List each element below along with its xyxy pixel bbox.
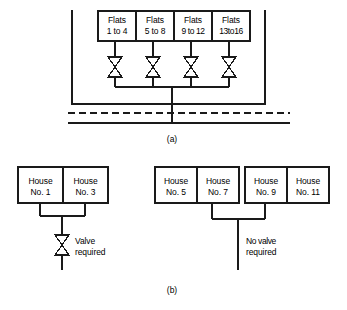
flats-box-3 [174, 11, 212, 41]
flats-box-4 [212, 11, 250, 41]
panel-a-caption: (a) [152, 134, 192, 144]
valve-a-4-lower [222, 67, 236, 77]
house-box-7 [197, 167, 239, 203]
house-box-9 [245, 167, 287, 203]
flats-box-1 [98, 11, 136, 41]
valve-a-2-upper [146, 57, 160, 67]
valve-a-1-upper [108, 57, 122, 67]
house-box-11 [287, 167, 329, 203]
panel-b-caption: (b) [152, 285, 192, 295]
house-box-3 [63, 167, 108, 203]
valve-a-1-lower [108, 67, 122, 77]
house-box-1 [18, 167, 63, 203]
valve-a-3-upper [184, 57, 198, 67]
valve-b-left-lower [55, 245, 69, 255]
valve-a-3-lower [184, 67, 198, 77]
flats-box-2 [136, 11, 174, 41]
no-valve-required-note: No valve required [246, 236, 276, 258]
valve-a-4-upper [222, 57, 236, 67]
valve-b-left-upper [55, 235, 69, 245]
valve-a-2-lower [146, 67, 160, 77]
diagram-lines [0, 0, 347, 310]
house-box-5 [155, 167, 197, 203]
plumbing-schematic-figure: Flats 1 to 4 Flats 5 to 8 Flats 9 to 12 … [0, 0, 347, 310]
valve-required-note: Valve required [75, 236, 105, 258]
